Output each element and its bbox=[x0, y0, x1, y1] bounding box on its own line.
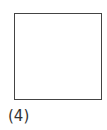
square-shape bbox=[14, 13, 102, 100]
figure-panel: (4) bbox=[0, 0, 107, 130]
figure-label: (4) bbox=[8, 107, 29, 125]
